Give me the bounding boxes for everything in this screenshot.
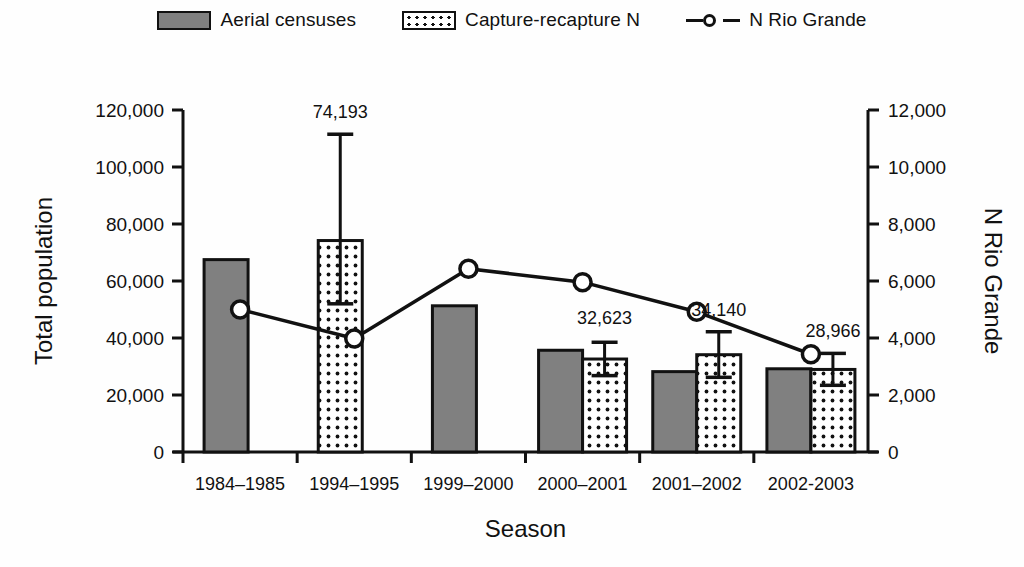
line-marker-point	[232, 301, 249, 318]
x-axis-category-label: 1994–1995	[309, 474, 399, 494]
left-axis-tick-label: 40,000	[106, 328, 164, 349]
x-axis-category-label: 2000–2001	[538, 474, 628, 494]
bar-aerial-census	[539, 350, 583, 452]
figure-root: Aerial censuses Capture-recapture N N Ri…	[0, 0, 1024, 567]
bar-data-label: 34,140	[691, 300, 746, 320]
bar-aerial-census	[767, 369, 811, 452]
left-axis-tick-label: 100,000	[95, 157, 164, 178]
right-axis-tick-label: 8,000	[888, 214, 936, 235]
left-axis-tick-label: 20,000	[106, 385, 164, 406]
right-axis-tick-label: 4,000	[888, 328, 936, 349]
line-marker-point	[460, 260, 477, 277]
left-axis-tick-label: 80,000	[106, 214, 164, 235]
secondary-y-axis-title: N Rio Grande	[980, 208, 1007, 355]
bar-aerial-census	[432, 306, 476, 452]
right-axis-tick-label: 12,000	[888, 100, 946, 121]
left-axis-tick-label: 0	[153, 442, 164, 463]
line-marker-point	[346, 330, 363, 347]
line-marker-point	[574, 274, 591, 291]
bar-data-label: 74,193	[313, 102, 368, 122]
chart-geometry: 020,00040,00060,00080,000100,000120,0000…	[30, 100, 1007, 542]
left-axis-tick-label: 60,000	[106, 271, 164, 292]
x-axis-category-label: 2001–2002	[652, 474, 742, 494]
right-axis-tick-label: 0	[888, 442, 899, 463]
x-axis-category-label: 1984–1985	[195, 474, 285, 494]
chart-canvas: 020,00040,00060,00080,000100,000120,0000…	[0, 0, 1024, 567]
line-marker-point	[802, 346, 819, 363]
bar-data-label: 32,623	[577, 308, 632, 328]
bar-aerial-census	[653, 372, 697, 452]
x-axis-title: Season	[485, 515, 566, 542]
bar-aerial-census	[204, 260, 248, 452]
y-axis-title: Total population	[30, 197, 57, 365]
x-axis-category-label: 1999–2000	[423, 474, 513, 494]
chart-plot-area: 020,00040,00060,00080,000100,000120,0000…	[0, 0, 1024, 567]
right-axis-tick-label: 2,000	[888, 385, 936, 406]
left-axis-tick-label: 120,000	[95, 100, 164, 121]
x-axis-category-label: 2002-2003	[768, 474, 854, 494]
right-axis-tick-label: 10,000	[888, 157, 946, 178]
bar-data-label: 28,966	[805, 321, 860, 341]
right-axis-tick-label: 6,000	[888, 271, 936, 292]
